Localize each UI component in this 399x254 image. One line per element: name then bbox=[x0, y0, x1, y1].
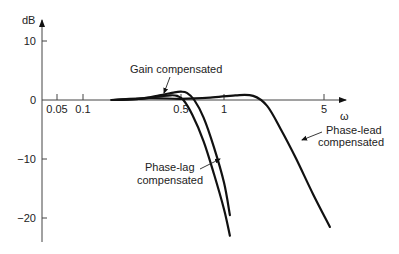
x-tick-label-0: 0.05 bbox=[46, 103, 67, 115]
x-tick-label-1: 0.1 bbox=[75, 103, 90, 115]
y-axis-label: dB bbox=[22, 14, 35, 26]
annotation-phase-lag-line2: compensated bbox=[137, 174, 203, 186]
annotation-gain-compensated: Gain compensated bbox=[130, 63, 222, 75]
y-tick-label-2: −10 bbox=[17, 153, 36, 165]
x-tick-label-3: 1 bbox=[221, 103, 227, 115]
annotation-arrow-gain bbox=[164, 77, 170, 93]
annotation-phase-lag-line1: Phase-lag bbox=[145, 161, 195, 173]
y-tick-label-3: −20 bbox=[17, 212, 36, 224]
series-gain-compensated bbox=[112, 92, 230, 215]
annotation-phase-lead-line2: compensated bbox=[318, 136, 384, 148]
annotation-phase-lead-line1: Phase-lead bbox=[326, 124, 382, 136]
chart: dB ω 0.050.10.515 100−10−20 Gain compens… bbox=[0, 0, 399, 254]
y-tick-label-1: 0 bbox=[30, 94, 36, 106]
x-tick-label-4: 5 bbox=[321, 103, 327, 115]
x-axis-label: ω bbox=[340, 110, 349, 122]
y-tick-label-0: 10 bbox=[24, 35, 36, 47]
